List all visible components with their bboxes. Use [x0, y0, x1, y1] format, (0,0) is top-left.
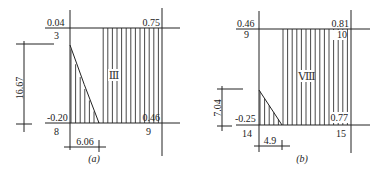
panel-a-horizontal-dimension: 6.06: [76, 136, 94, 147]
panel-b-vertical-dimension: 7.04: [212, 99, 223, 117]
panel-b-boundary-line: [259, 90, 282, 125]
panel-b-bottom-left-value: -0.25: [235, 113, 256, 124]
panel-a-caption: (a): [88, 153, 100, 165]
panel-b-top-right-value: 0.81: [332, 18, 350, 29]
panel-a-vertical-dimension: 16.67: [14, 77, 25, 100]
panel-a-bottom-left-node: 8: [54, 126, 59, 137]
panel-a-top-right-value: 0.75: [143, 17, 161, 28]
panel-b-top-right-node: 10: [337, 29, 347, 40]
panel-b-caption: (b): [296, 153, 308, 165]
panel-b-top-left-node: 9: [244, 29, 249, 40]
panel-b: 7.04 4.9 0.46 0.81 9 10 -0.25 0.77 14 15…: [212, 10, 370, 165]
panel-b-bottom-right-node: 15: [336, 128, 346, 139]
panel-b-bottom-left-node: 14: [242, 128, 252, 139]
panel-b-top-left-value: 0.46: [237, 18, 255, 29]
panel-a-bottom-right-node: 9: [146, 126, 151, 137]
panel-b-bottom-right-value: 0.77: [331, 112, 349, 123]
panel-a-bottom-right-value: 0.46: [143, 112, 161, 123]
panel-a-region-label: Ⅲ: [109, 69, 120, 81]
panel-a-bottom-left-value: -0.20: [47, 112, 68, 123]
panel-b-horizontal-dimension: 4.9: [264, 135, 277, 146]
panel-b-region-label: Ⅷ: [297, 70, 315, 82]
panel-a: 16.67 6.06 0.04 0.75 3 -0.20 0.46 8 9 Ⅲ …: [14, 8, 180, 165]
panel-a-top-left-value: 0.04: [47, 17, 65, 28]
diagram-canvas: 16.67 6.06 0.04 0.75 3 -0.20 0.46 8 9 Ⅲ …: [0, 0, 381, 180]
panel-a-top-left-node: 3: [54, 30, 59, 41]
